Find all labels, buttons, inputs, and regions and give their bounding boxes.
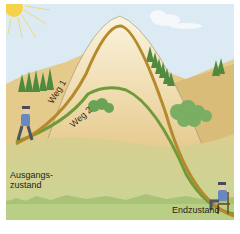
start-state-label: Ausgangs- zustand	[10, 170, 53, 190]
end-state-label: Endzustand	[172, 205, 220, 215]
illustration: Weg 1 Weg 2 Ausgangs- zustand Endzustand	[6, 4, 234, 220]
